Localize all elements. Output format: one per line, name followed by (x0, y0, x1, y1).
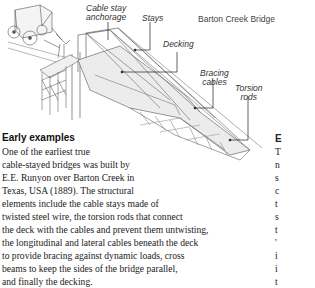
figure-title: Barton Creek Bridge (198, 14, 275, 24)
next-column-fragment: E T n s c t s t ' i i t (275, 132, 315, 288)
section-heading: Early examples (2, 132, 75, 143)
body-line: elements include the cable stays made of (2, 197, 262, 210)
next-column-heading: E (275, 132, 315, 145)
article-body: One of the earliest true cable-stayed br… (2, 145, 262, 288)
body-line: twisted steel wire, the torsion rods tha… (2, 210, 262, 223)
body-line: One of the earliest true (2, 145, 262, 158)
stays-label: Stays (142, 14, 163, 23)
body-line: Texas, USA (1889). The structural (2, 184, 262, 197)
anchorage-label: Cable stay anchorage (86, 4, 126, 22)
body-line: cable-stayed bridges was built by (2, 158, 262, 171)
decking-label: Decking (163, 40, 194, 49)
body-line: the deck with the cables and prevent the… (2, 223, 262, 236)
bracing-cables-label: Bracing cables (200, 69, 229, 87)
body-line: the longitudinal and lateral cables bene… (2, 236, 262, 249)
body-line: E.E. Runyon over Barton Creek in (2, 171, 262, 184)
body-line: beams to keep the sides of the bridge pa… (2, 262, 262, 275)
torsion-rods-label: Torsion rods (235, 84, 263, 102)
body-line: and finally the decking. (2, 275, 262, 288)
body-line: to provide bracing against dynamic loads… (2, 249, 262, 262)
